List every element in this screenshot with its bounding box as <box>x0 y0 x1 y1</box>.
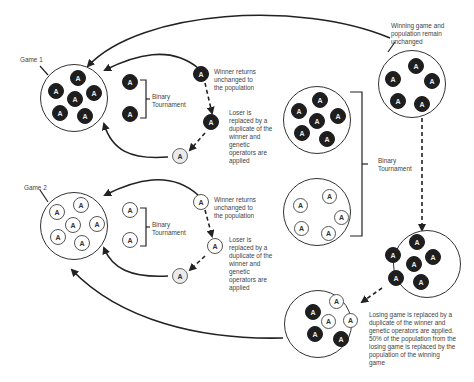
population-token: A <box>291 103 307 119</box>
winner-token: A <box>193 194 209 210</box>
loser-token: A <box>203 114 219 130</box>
population-token: A <box>293 198 308 213</box>
binary-tournament-label-game2: Binary Tournament <box>152 221 186 237</box>
population-token: A <box>50 229 66 245</box>
population-token: A <box>329 294 344 309</box>
population-token: A <box>309 113 325 129</box>
binary-tournament-label-game1: Binary Tournament <box>152 93 186 109</box>
mutated-offspring-token: A <box>172 148 188 164</box>
population-token: A <box>319 131 335 147</box>
population-token: A <box>321 226 336 241</box>
population-token: A <box>330 108 346 124</box>
binary-tournament-label-games: Binary Tournament <box>378 157 412 173</box>
population-token: A <box>388 270 404 286</box>
game-2-label: Game 2 <box>24 184 47 192</box>
population-token: A <box>312 92 328 108</box>
population-token: A <box>409 234 425 250</box>
population-token: A <box>390 93 406 109</box>
population-token: A <box>48 83 64 99</box>
mutated-offspring-token: A <box>172 268 188 284</box>
loser-replaced-label-game1: Loser is replaced by a duplicate of the … <box>229 109 272 165</box>
population-token: A <box>67 91 83 107</box>
population-token: A <box>49 204 65 220</box>
tournament-candidate-token: A <box>122 74 138 90</box>
population-token: A <box>294 221 309 236</box>
loser-replaced-label-game2: Loser is replaced by a duplicate of the … <box>229 236 272 292</box>
population-token: A <box>322 189 337 204</box>
population-token: A <box>334 210 349 225</box>
population-token: A <box>89 216 105 232</box>
population-token: A <box>414 96 430 112</box>
population-token: A <box>307 326 323 342</box>
winner-token: A <box>193 66 209 82</box>
population-token: A <box>305 304 321 320</box>
winner-returns-label-game2: Winner returns unchanged to the populati… <box>214 196 256 220</box>
population-token: A <box>425 249 441 265</box>
winner-returns-label-game1: Winner returns unchanged to the populati… <box>214 68 256 92</box>
population-token: A <box>321 314 336 329</box>
population-token: A <box>385 247 401 263</box>
population-token: A <box>74 235 90 251</box>
diagram-canvas: Game 1 Game 2 Binary Tournament Binary T… <box>0 0 474 382</box>
population-token: A <box>406 256 422 272</box>
population-token: A <box>424 73 440 89</box>
population-token: A <box>65 217 81 233</box>
winning-game-unchanged-label: Winning game and population remain uncha… <box>391 22 444 46</box>
population-token: A <box>86 85 102 101</box>
population-token: A <box>385 71 401 87</box>
duplicated-winning-game-pool <box>393 230 461 298</box>
population-token: A <box>52 105 68 121</box>
population-token: A <box>70 70 86 86</box>
population-token: A <box>77 108 93 124</box>
population-token: A <box>343 313 358 328</box>
population-token: A <box>413 274 429 290</box>
loser-token: A <box>207 238 223 254</box>
population-token: A <box>408 58 424 74</box>
losing-game-replaced-label: Losing game is replaced by a duplicate o… <box>369 311 456 367</box>
tournament-candidate-token: A <box>122 202 138 218</box>
game-1-label: Game 1 <box>20 56 43 64</box>
population-token: A <box>294 125 310 141</box>
tournament-candidate-token: A <box>122 232 138 248</box>
population-token: A <box>333 331 349 347</box>
population-token: A <box>73 197 89 213</box>
tournament-candidate-token: A <box>122 106 138 122</box>
